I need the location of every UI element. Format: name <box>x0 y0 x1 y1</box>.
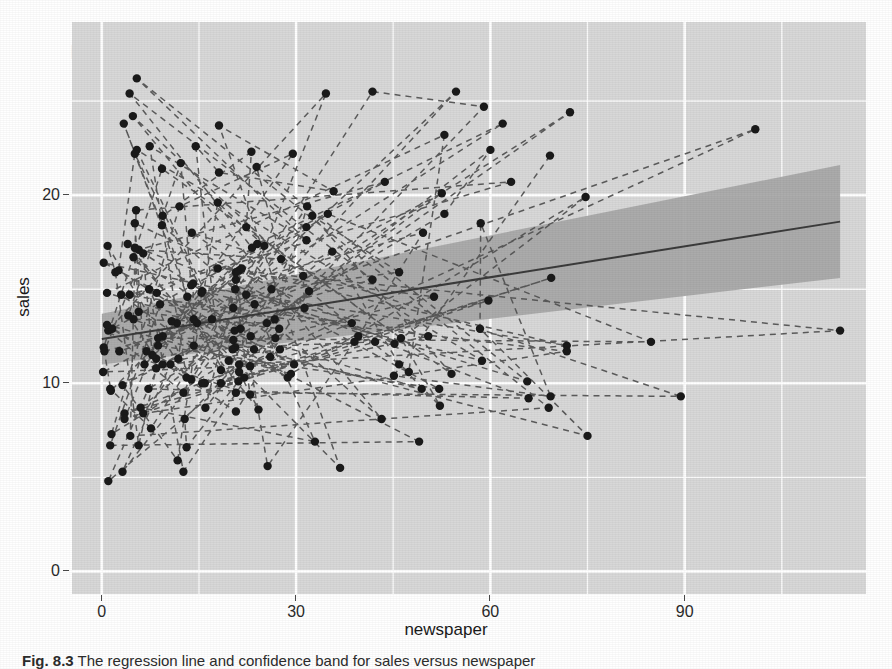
x-tick-mark <box>101 595 102 601</box>
figure-caption: Fig. 8.3 The regression line and confide… <box>22 652 882 669</box>
x-tick-mark <box>684 595 685 601</box>
x-tick-mark <box>489 595 490 601</box>
figure-caption-label: Fig. 8.3 <box>22 652 74 669</box>
plot-panel <box>72 22 866 594</box>
y-tick-mark <box>63 570 69 571</box>
x-tick-0: 0 <box>74 603 130 621</box>
x-tick-mark <box>295 595 296 601</box>
y-tick-20: 20 <box>14 186 60 204</box>
y-axis-title: sales <box>14 277 34 317</box>
x-tick-60: 60 <box>462 603 518 621</box>
y-tick-mark <box>63 194 69 195</box>
x-tick-30: 30 <box>268 603 324 621</box>
figure-caption-text: The regression line and confidence band … <box>78 652 536 669</box>
y-tick-10: 10 <box>14 374 60 392</box>
x-tick-90: 90 <box>657 603 713 621</box>
x-axis-title: newspaper <box>0 620 892 640</box>
figure-container: sales newspaper 01020 0306090 Fig. 8.3 T… <box>0 0 892 669</box>
y-tick-mark <box>63 382 69 383</box>
y-tick-0: 0 <box>14 562 60 580</box>
plot-svg <box>72 22 866 594</box>
